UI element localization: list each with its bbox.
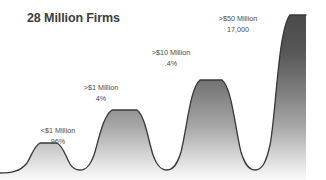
tier-value: 17,000 xyxy=(196,25,280,36)
chart-canvas: 28 Million Firms <$1 Million 96% >$1 Mil… xyxy=(0,0,326,180)
tier-name: >$50 Million xyxy=(196,14,280,25)
page-title: 28 Million Firms xyxy=(27,11,120,25)
tier-name: <$1 Million xyxy=(17,126,99,137)
tier-value: 96% xyxy=(17,137,99,148)
tier-label-over-1-million: >$1 Million 4% xyxy=(62,83,140,104)
tier-label-over-10-million: >$10 Million .4% xyxy=(131,48,211,69)
tier-label-over-50-million: >$50 Million 17,000 xyxy=(196,14,280,35)
tier-label-under-1-million: <$1 Million 96% xyxy=(17,126,99,147)
tier-name: >$1 Million xyxy=(62,83,140,94)
tier-value: .4% xyxy=(131,59,211,70)
tier-value: 4% xyxy=(62,94,140,105)
tier-name: >$10 Million xyxy=(131,48,211,59)
